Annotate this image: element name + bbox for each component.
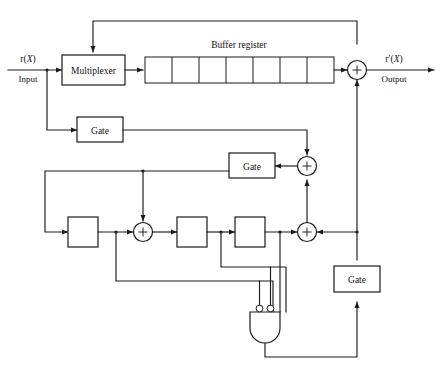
and-gate-inverter-bubble-1 [256,305,263,312]
adder-output [348,61,367,80]
input-signal-label: r(X) [20,54,35,65]
shift-register-stage-1[interactable] [68,217,98,247]
multiplexer-label: Multiplexer [71,66,117,76]
wire-feedback-bus-to-adder-middle [141,169,144,221]
gate-correction-label: Gate [348,275,366,285]
output-caption-label: Output [381,74,407,84]
multiplexer-block[interactable]: Multiplexer [62,55,125,85]
buffer-register-label: Buffer register [211,40,267,50]
shift-register-stage-2[interactable] [177,217,207,247]
wire-gate-correction-trunk [355,80,358,260]
adder-upper [298,157,317,176]
circuit-diagram: r(X) Input Multiplexer Buffer register [0,0,443,383]
gate-input-block[interactable]: Gate [77,117,123,142]
gate-syndrome-label: Gate [243,162,261,172]
input-caption-label: Input [19,74,38,84]
gate-input-label: Gate [91,126,109,136]
gate-syndrome-block[interactable]: Gate [229,153,275,178]
output-signal-label: r′(X) [385,54,402,65]
adder-right [298,223,317,242]
gate-correction-block[interactable]: Gate [334,266,380,292]
and-gate-inverter-bubble-2 [267,305,274,312]
wire-gate-input-to-adder-upper [123,130,307,155]
shift-register-stage-3[interactable] [235,217,265,247]
buffer-register-block[interactable] [145,57,334,83]
wire-stage3-to-adder-right [265,230,297,233]
adder-middle [134,223,153,242]
diagram-root: r(X) Input Multiplexer Buffer register [0,0,443,383]
and-gate[interactable] [250,267,280,343]
